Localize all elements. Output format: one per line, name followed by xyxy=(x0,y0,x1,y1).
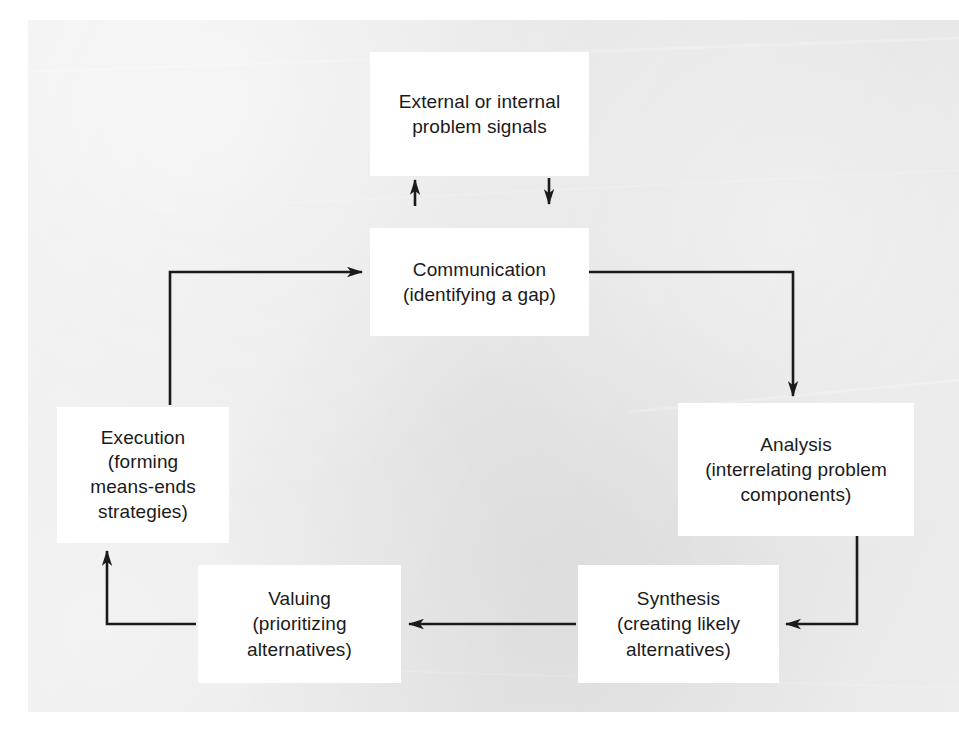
node-label-execution: Execution (forming means-ends strategies… xyxy=(90,426,196,525)
node-execution: Execution (forming means-ends strategies… xyxy=(57,407,229,543)
node-label-valuing: Valuing (prioritizing alternatives) xyxy=(247,586,352,661)
figure-root: External or internal problem signals Com… xyxy=(0,0,959,750)
node-label-problem-signals: External or internal problem signals xyxy=(399,89,560,139)
node-communication: Communication (identifying a gap) xyxy=(370,228,589,336)
node-label-communication: Communication (identifying a gap) xyxy=(403,257,556,307)
node-valuing: Valuing (prioritizing alternatives) xyxy=(198,565,401,683)
node-label-analysis: Analysis (interrelating problem componen… xyxy=(705,432,887,507)
node-label-synthesis: Synthesis (creating likely alternatives) xyxy=(617,586,740,661)
node-synthesis: Synthesis (creating likely alternatives) xyxy=(578,565,779,683)
node-analysis: Analysis (interrelating problem componen… xyxy=(678,403,914,536)
node-external-or-internal-problem-signals: External or internal problem signals xyxy=(370,52,589,176)
